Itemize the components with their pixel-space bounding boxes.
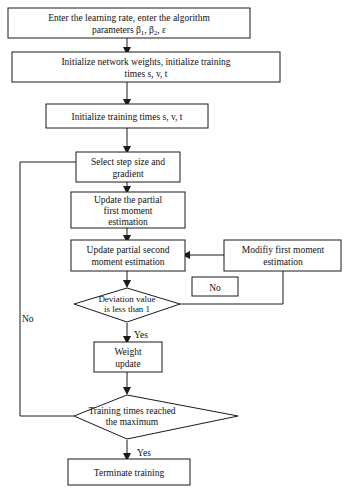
node-label-line1: Select step size and: [91, 157, 165, 167]
param-epsilon: , ε: [157, 25, 166, 35]
node-label-line1: Weight: [114, 347, 142, 357]
node-label-line1: Update the partial: [94, 195, 162, 205]
node-label-line1: Modifiy first moment: [242, 245, 325, 255]
node-select-step-size-and-gradient: Select step size and gradient: [76, 152, 180, 182]
node-weight-update: Weight update: [94, 342, 162, 372]
edge-d2-no-loopback: [20, 162, 76, 416]
node-update-partial-second-moment: Update partial second moment estimation: [71, 240, 185, 271]
edge-label-deviation-yes: Yes: [134, 330, 148, 340]
decision-label-line1: Training times reached: [88, 406, 175, 416]
flowchart-canvas: Enter the learning rate, enter the algor…: [0, 0, 347, 491]
arrowhead-n6-d1: [123, 280, 131, 288]
node-update-partial-first-moment: Update the partial first moment estimati…: [71, 192, 185, 228]
node-label-line2: first moment: [104, 206, 153, 216]
node-label-line2: times s, v, t: [125, 69, 168, 79]
decision-label-line2: the maximum: [106, 417, 159, 427]
node-terminate-training: Terminate training: [68, 459, 190, 485]
node-initialize-training-times: Initialize training times s, v, t: [46, 104, 208, 128]
node-label-line3: estimation: [108, 217, 148, 227]
param-beta-prefix: parameters β: [92, 25, 141, 35]
node-no-label-box: No: [192, 277, 238, 296]
decision-label-line1: Deviation value: [98, 294, 155, 304]
node-enter-learning-rate: Enter the learning rate, enter the algor…: [8, 8, 250, 38]
node-label-line1: Update partial second: [87, 245, 170, 255]
node-label-line1: Terminate training: [94, 468, 165, 478]
node-label-line1: Enter the learning rate, enter the algor…: [48, 13, 210, 23]
node-label-no: No: [209, 283, 221, 293]
node-label-line2: gradient: [112, 169, 143, 179]
arrowhead-n8-d2: [123, 387, 131, 395]
node-label-line2: update: [115, 359, 140, 369]
edge-label-deviation-no: No: [22, 314, 34, 324]
param-beta-mid: , β: [144, 25, 154, 35]
edge-label-training-yes: Yes: [137, 448, 151, 458]
decision-deviation-value: Deviation value is less than 1: [74, 288, 180, 322]
node-label-line2: moment estimation: [91, 257, 164, 267]
node-modify-first-moment: Modifiy first moment estimation: [224, 240, 341, 271]
node-label-line1: Initialize network weights, initialize t…: [61, 57, 230, 67]
node-label-line2: estimation: [263, 257, 303, 267]
decision-label-line2: is less than 1: [104, 304, 150, 314]
node-label-line1: Initialize training times s, v, t: [72, 112, 183, 122]
decision-training-times-max: Training times reached the maximum: [74, 395, 238, 439]
node-initialize-network-weights: Initialize network weights, initialize t…: [12, 52, 280, 82]
